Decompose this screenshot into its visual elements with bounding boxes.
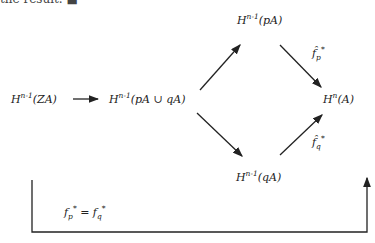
node-h-a: Hn(A) (323, 91, 354, 106)
node-h-za: Hn-1(ZA) (11, 91, 57, 106)
node-h-pa: Hn-1(pA) (237, 12, 282, 27)
node-h-qa: Hn-1(qA) (236, 169, 281, 184)
node-h-union: Hn-1(pA ∪ qA) (109, 91, 186, 106)
diagram-arrows (0, 0, 375, 243)
label-fp-equals-fq: fp* = fq* (64, 204, 106, 221)
arrow-union-to-qa (197, 113, 242, 156)
label-fq-hat-star: f̂q* (312, 134, 325, 151)
label-fp-hat-star: f̂p* (312, 45, 325, 62)
arrow-union-to-pa (200, 45, 240, 90)
